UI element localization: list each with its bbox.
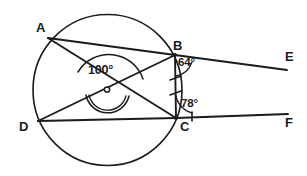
angle-label-b: 64° [178, 57, 195, 69]
point-label-b: B [173, 39, 182, 52]
geometry-canvas [0, 0, 307, 176]
vertex-dot-c [174, 116, 178, 120]
chord-BC [175, 55, 176, 118]
vertex-dot-b [173, 53, 177, 57]
chord-DC [38, 118, 176, 121]
geometry-figure: A B C D E F 100° 64° 78° [0, 0, 307, 176]
chord-AB [48, 38, 175, 55]
point-label-c: C [180, 120, 189, 133]
point-label-f: F [285, 116, 293, 129]
angle-label-c: 78° [181, 98, 198, 110]
angle-label-centre: 100° [88, 64, 113, 77]
centre-point-marker [104, 87, 109, 92]
point-label-a: A [36, 21, 45, 34]
point-label-d: D [19, 120, 28, 133]
point-label-e: E [285, 50, 294, 63]
